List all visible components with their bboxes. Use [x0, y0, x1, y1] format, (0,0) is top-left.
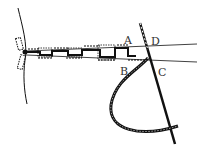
- label-a: A: [123, 34, 133, 47]
- stitch-diagram: A D B C: [0, 0, 209, 155]
- label-d: D: [151, 35, 160, 48]
- label-b: B: [120, 65, 128, 78]
- stitch-solid: [26, 48, 136, 57]
- knot-tab-upper: [16, 37, 24, 50]
- label-c: C: [158, 66, 166, 79]
